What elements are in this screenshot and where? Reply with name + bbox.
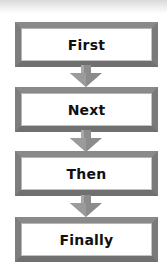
flow-step-first: First	[15, 22, 158, 67]
top-shadow-strip	[0, 0, 167, 14]
down-arrow-icon	[70, 195, 102, 217]
flow-step-finally: Finally	[15, 217, 158, 262]
flow-step-label: Next	[68, 102, 106, 118]
flow-step-label: Finally	[60, 232, 114, 248]
flow-step-label: Then	[67, 166, 107, 182]
flow-step-next: Next	[15, 87, 158, 132]
flow-step-label: First	[68, 37, 105, 53]
down-arrow-icon	[70, 65, 102, 87]
flow-step-then: Then	[15, 151, 158, 196]
down-arrow-icon	[70, 130, 102, 152]
